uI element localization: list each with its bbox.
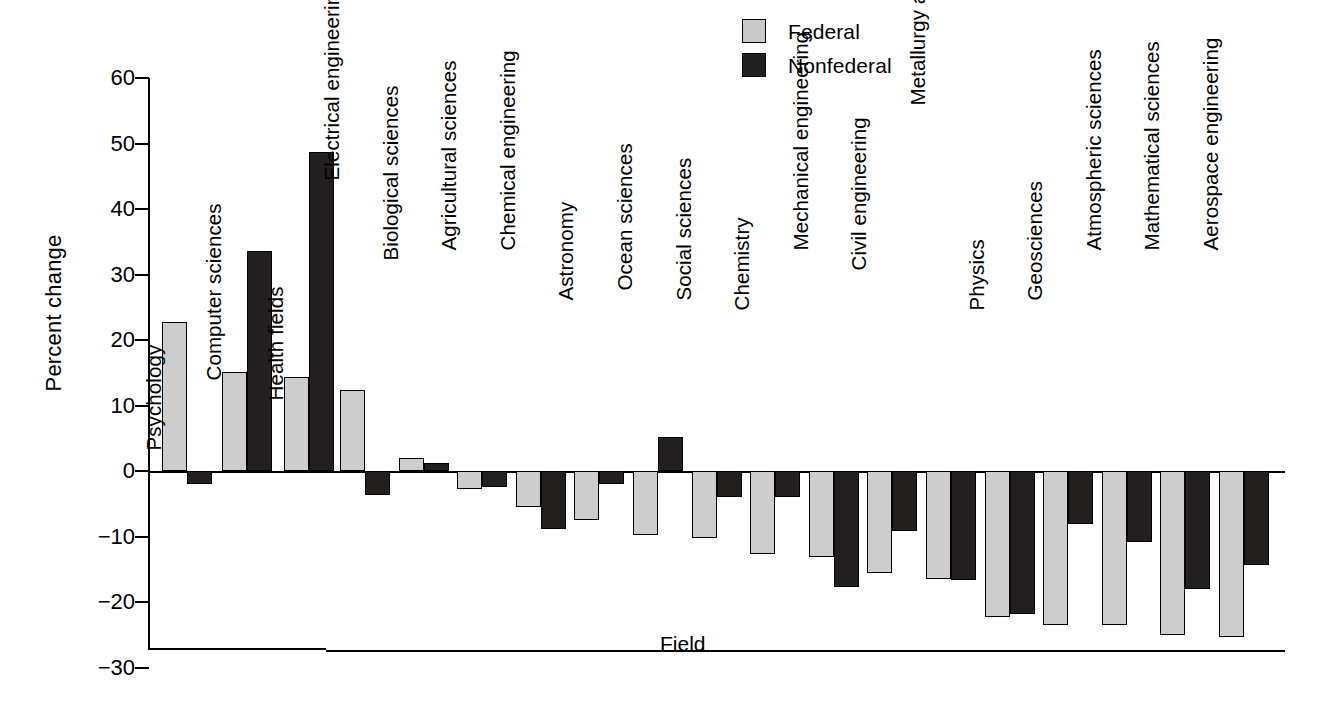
bar-federal xyxy=(284,377,309,471)
x-axis-category-label: Physics xyxy=(966,239,987,310)
bar-federal xyxy=(1219,471,1244,637)
bar-federal xyxy=(457,471,482,489)
bar-nonfederal xyxy=(365,471,390,495)
plot-area: PsychologyComputer sciencesHealth fields… xyxy=(0,0,1330,720)
x-axis-category-label: Chemistry xyxy=(732,217,753,310)
bar-federal xyxy=(809,471,834,557)
bar-nonfederal xyxy=(599,471,624,484)
x-axis-category-label: Civil engineering xyxy=(849,117,870,270)
x-axis-category-label: Biological sciences xyxy=(380,85,401,260)
bar-federal xyxy=(985,471,1010,617)
x-axis-category-label: Atmospheric sciences xyxy=(1083,49,1104,250)
bar-federal xyxy=(926,471,951,579)
x-axis-category-label: Social sciences xyxy=(673,158,694,301)
x-axis-category-label: Mathematical sciences xyxy=(1142,41,1163,250)
bar-nonfederal xyxy=(1127,471,1152,542)
bar-nonfederal xyxy=(482,471,507,487)
bar-nonfederal xyxy=(834,471,859,587)
bar-federal xyxy=(222,372,247,471)
bar-federal xyxy=(399,458,424,471)
x-axis-category-label: Metallurgy and Materials enginering xyxy=(908,0,929,106)
bar-nonfederal xyxy=(1068,471,1093,524)
x-axis-category-label: Mechanical engineering xyxy=(790,32,811,251)
bar-nonfederal xyxy=(1244,471,1269,565)
bar-nonfederal xyxy=(892,471,917,531)
x-axis-category-label: Agricultural sciences xyxy=(439,60,460,250)
bar-federal xyxy=(867,471,892,573)
bar-nonfederal xyxy=(541,471,566,529)
x-axis-category-label: Psychology xyxy=(144,345,165,451)
bar-nonfederal xyxy=(951,471,976,580)
bar-federal xyxy=(633,471,658,535)
bar-federal xyxy=(692,471,717,538)
bar-federal xyxy=(162,322,187,471)
x-axis-category-label: Health fields xyxy=(266,286,287,400)
bar-federal xyxy=(1160,471,1185,635)
bar-nonfederal xyxy=(717,471,742,497)
x-axis-category-label: Astronomy xyxy=(556,202,577,301)
x-axis-category-label: Computer sciences xyxy=(204,203,225,380)
bar-federal xyxy=(750,471,775,554)
x-axis-category-label: Aerospace engineering xyxy=(1201,38,1222,251)
bar-nonfederal xyxy=(1185,471,1210,589)
bar-federal xyxy=(574,471,599,520)
bar-federal xyxy=(340,390,365,471)
chart-figure: Federal Nonfederal 6050403020100−10−20−3… xyxy=(0,0,1330,720)
x-axis-category-label: Electrical engineering xyxy=(322,0,343,181)
bar-nonfederal xyxy=(658,437,683,471)
bar-federal xyxy=(516,471,541,507)
bar-nonfederal xyxy=(424,463,449,471)
x-axis-category-label: Chemical engineering xyxy=(497,50,518,250)
x-axis-category-label: Geosciences xyxy=(1025,181,1046,301)
bar-nonfederal xyxy=(187,471,212,484)
bar-nonfederal xyxy=(1010,471,1035,614)
bar-nonfederal xyxy=(309,152,334,471)
bar-federal xyxy=(1043,471,1068,625)
x-axis-category-label: Ocean sciences xyxy=(615,143,636,290)
bar-federal xyxy=(1102,471,1127,625)
bar-nonfederal xyxy=(775,471,800,497)
